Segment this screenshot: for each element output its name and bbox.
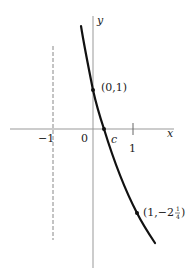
point-label-0-1: (0,1) <box>101 81 127 94</box>
origin-label: 0 <box>81 132 88 145</box>
tick-label-neg1: −1 <box>38 132 54 145</box>
point-label-frac-num: 1 <box>176 205 180 212</box>
point-0-1 <box>91 88 95 92</box>
point-root-c <box>102 127 106 131</box>
point-1-neg2-1-4 <box>135 211 139 215</box>
point-label-close: ) <box>181 206 185 219</box>
point-label-main: (1,−2 <box>143 206 174 219</box>
tick-label-1: 1 <box>129 142 136 155</box>
point-label-frac-den: 4 <box>176 213 180 220</box>
point-label-1-neg2: (1,−2 <box>143 206 174 219</box>
function-graph: y x −1 0 c 1 (0,1) (1,−2 1 4 ) <box>0 0 192 276</box>
x-axis-label: x <box>167 127 174 140</box>
y-axis-label: y <box>96 14 104 27</box>
root-label: c <box>111 133 117 146</box>
